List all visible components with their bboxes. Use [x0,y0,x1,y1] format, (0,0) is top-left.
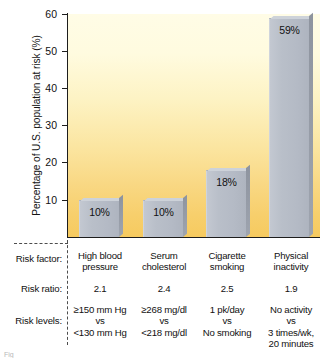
cell-risk-factor-3: Cigarette smoking [196,250,258,273]
bar-side-face [309,13,313,237]
risk-level-line3: <130 mm Hg [67,327,133,338]
y-tick-label-30: 30 [17,119,57,131]
risk-level-line1: No activity [257,304,325,315]
risk-level-line3: 3 times/wk, [257,327,325,338]
risk-level-line1: ≥150 mm Hg [67,304,133,315]
y-tick-40 [62,88,67,89]
cell-risk-factor-4: Physical inactivity [259,250,323,273]
risk-level-line2: vs [131,315,197,326]
cell-risk-factor-1: High blood pressure [70,250,130,273]
y-tick-50 [62,51,67,52]
bar-serum-cholesterol[interactable]: 10% [143,200,183,237]
risk-factor-line2: smoking [196,261,258,272]
bar-value-label: 59% [270,24,309,36]
y-tick-label-60: 60 [17,8,57,20]
bar-top-face [270,16,313,19]
bar-side-face [246,165,250,237]
risk-factor-line2: pressure [70,261,130,272]
y-tick-label-20: 20 [17,156,57,168]
y-tick-30 [62,125,67,126]
risk-factor-bar-chart-figure: Percentage of U.S. population at risk (%… [0,0,328,358]
risk-level-line2: vs [67,315,133,326]
risk-level-line2: vs [194,315,260,326]
figure-caption: Fig [4,351,14,358]
row-label-risk-factor: Risk factor: [0,253,62,264]
risk-level-line3: No smoking [194,327,260,338]
cell-risk-ratio-3: 2.5 [196,283,258,294]
y-tick-60 [62,14,67,15]
risk-factor-line2: cholesterol [133,261,195,272]
bar-physical-inactivity[interactable]: 59% [269,18,309,237]
bar-side-face [119,195,123,237]
risk-level-line2: vs [257,315,325,326]
bar-value-label: 10% [144,206,183,218]
risk-level-line1: 1 pk/day [194,304,260,315]
cell-risk-factor-2: Serum cholesterol [133,250,195,273]
bar-side-face [183,195,187,237]
y-tick-10 [62,200,67,201]
risk-level-line3: <218 mg/dl [131,327,197,338]
bar-high-blood-pressure[interactable]: 10% [79,200,119,237]
y-tick-20 [62,162,67,163]
y-tick-label-10: 10 [17,194,57,206]
row-label-risk-levels: Risk levels: [0,315,62,326]
risk-factor-line1: Physical [259,250,323,261]
cell-risk-levels-1: ≥150 mm Hg vs <130 mm Hg [67,304,133,338]
risk-factor-line1: Serum [133,250,195,261]
y-tick-label-40: 40 [17,82,57,94]
risk-factor-line2: inactivity [259,261,323,272]
y-axis-line [67,13,68,238]
risk-factor-line1: Cigarette [196,250,258,261]
bar-value-label: 10% [80,206,119,218]
bar-top-face [144,198,187,201]
risk-level-line1: ≥268 mg/dl [131,304,197,315]
risk-factor-line1: High blood [70,250,130,261]
cell-risk-ratio-1: 2.1 [70,283,130,294]
bar-value-label: 18% [207,176,246,188]
row-label-risk-ratio: Risk ratio: [0,283,62,294]
cell-risk-levels-3: 1 pk/day vs No smoking [194,304,260,338]
y-tick-label-50: 50 [17,45,57,57]
cell-risk-ratio-4: 1.9 [259,283,323,294]
cell-risk-ratio-2: 2.4 [133,283,195,294]
cell-risk-levels-2: ≥268 mg/dl vs <218 mg/dl [131,304,197,338]
risk-level-line4: 20 minutes [257,338,325,349]
bar-top-face [80,198,123,201]
cell-risk-levels-4: No activity vs 3 times/wk, 20 minutes [257,304,325,350]
bar-cigarette-smoking[interactable]: 18% [206,170,246,237]
horizontal-dashed-divider [14,243,68,244]
x-axis-line [67,237,320,238]
bar-top-face [207,168,250,171]
